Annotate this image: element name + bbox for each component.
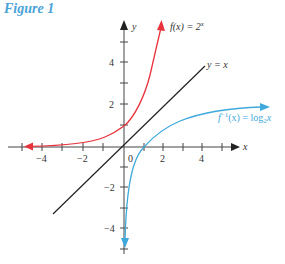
log-curve: [125, 107, 262, 240]
graph: −4 −2 2 4 4 2 −2 −4 0 y x f(x) = 2x y = …: [0, 0, 285, 264]
y-axis: [120, 20, 128, 254]
exp-arrow-left-icon: [24, 143, 33, 151]
y-axis-label: y: [131, 21, 137, 32]
y-tick-label: 2: [109, 99, 114, 110]
x-axis-label: x: [242, 141, 248, 152]
x-tick-label: −4: [36, 153, 47, 164]
x-tick-label: −2: [77, 153, 88, 164]
origin-label: 0: [128, 153, 133, 164]
y-tick-label: −4: [104, 223, 115, 234]
identity-label: y = x: [206, 59, 228, 70]
log-label: f−1(x) = log2x: [218, 111, 272, 125]
x-tick-label: 2: [160, 153, 165, 164]
exp-arrow-up-icon: [157, 20, 165, 31]
x-axis-arrow-icon: [231, 143, 240, 151]
y-tick-label: 4: [109, 57, 114, 68]
log-arrow-right-icon: [260, 103, 270, 111]
x-tick-label: 4: [199, 153, 204, 164]
exp-label: f(x) = 2x: [170, 20, 205, 33]
log-arrow-down-icon: [121, 238, 129, 248]
y-tick-label: −2: [104, 182, 115, 193]
y-axis-arrow-icon: [120, 20, 128, 30]
